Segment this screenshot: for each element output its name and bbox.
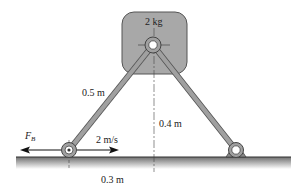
link-right — [153, 45, 236, 150]
diagram-canvas — [0, 0, 303, 194]
horizontal-dimension-label: 0.3 m — [101, 175, 124, 185]
force-label: FB — [25, 131, 35, 141]
mechanism-diagram: 2 kg 0.5 m 0.4 m 0.3 m 2 m/s FB — [0, 0, 303, 194]
mass-label: 2 kg — [145, 17, 163, 27]
height-dimension-label: 0.4 m — [159, 119, 182, 129]
link-length-label: 0.5 m — [82, 88, 105, 98]
ground — [16, 157, 291, 169]
force-arrow — [20, 147, 61, 154]
velocity-label: 2 m/s — [96, 135, 118, 145]
top-pin — [145, 37, 161, 53]
force-subscript: B — [31, 135, 35, 143]
velocity-arrow — [77, 147, 119, 154]
